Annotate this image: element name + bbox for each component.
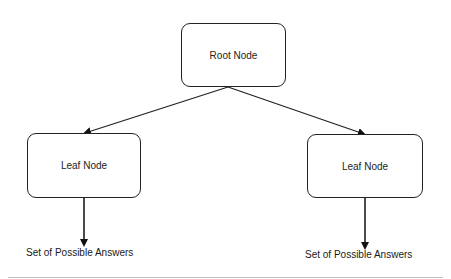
root-node: Root Node xyxy=(181,23,286,87)
leaf-node-right: Leaf Node xyxy=(307,134,423,198)
leaf-node-left: Leaf Node xyxy=(27,133,141,198)
root-node-label: Root Node xyxy=(210,50,258,61)
leaf-node-right-label: Leaf Node xyxy=(342,161,388,172)
edge-root-to-leaf-right xyxy=(228,87,364,134)
bottom-divider xyxy=(8,277,443,278)
leaf-node-left-label: Leaf Node xyxy=(61,160,107,171)
edge-root-to-leaf-left xyxy=(85,87,228,133)
answers-left-label: Set of Possible Answers xyxy=(26,247,133,258)
answers-right-label: Set of Possible Answers xyxy=(305,249,412,260)
